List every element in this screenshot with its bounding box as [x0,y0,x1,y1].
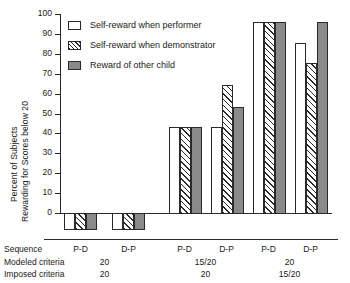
axis-row-label: Imposed criteria [4,269,64,279]
bar [253,22,264,214]
bar-group [211,14,244,214]
sequence-value: P-D [165,244,205,254]
bar [222,85,233,214]
zero-line [60,213,332,214]
modeled-criteria-value: 15/20 [176,257,236,267]
y-axis-tick-label: 50 [22,108,52,118]
axis-row-label: Modeled criteria [4,257,64,267]
legend-swatch-gray-icon [68,61,81,70]
legend-item-label: Reward of other child [90,60,175,70]
y-axis-tick-label: 40 [22,127,52,137]
bar-group [295,14,328,214]
bar [211,127,222,214]
y-axis-tick-label: 90 [22,28,52,38]
y-axis-title-line-2: Rewarding for Scores below 20 [20,101,30,222]
bar [134,213,145,230]
sequence-value: D-P [109,244,149,254]
sequence-value: D-P [291,244,331,254]
bar [233,107,244,214]
bar [64,213,75,230]
modeled-criteria-value: 20 [260,257,320,267]
bar-group [253,14,286,214]
bar [123,213,134,230]
bar [75,213,86,230]
bar [86,213,97,230]
bar [112,213,123,230]
y-axis-tick-label: 20 [22,167,52,177]
sequence-value: D-P [207,244,247,254]
bar [275,22,286,214]
legend-item: Reward of other child [68,57,216,73]
y-axis-title-line-1: Percent of Subjects [9,126,19,202]
legend-item: Self-reward when demonstrator [68,37,216,53]
y-axis-tick-label: 70 [22,68,52,78]
y-axis-tick-label: 10 [22,187,52,197]
legend-swatch-hatched-icon [68,41,81,50]
legend-item: Self-reward when performer [68,17,216,33]
y-axis-tick-label: 30 [22,147,52,157]
legend-item-label: Self-reward when demonstrator [90,40,216,50]
bar [191,127,202,214]
modeled-criteria-value: 20 [75,257,135,267]
x-axis-baseline [44,239,338,240]
y-axis-tick-label: 80 [22,48,52,58]
legend-swatch-open-icon [68,21,81,30]
bar [295,43,306,214]
bar [264,22,275,214]
bar [180,127,191,214]
y-axis-tick-label: 0 [22,207,52,217]
bar-chart-figure: Percent of Subjects Rewarding for Scores… [0,0,350,283]
y-axis-tick-label: 60 [22,88,52,98]
sequence-value: P-D [61,244,101,254]
axis-row-label: Sequence [4,244,42,254]
bar [317,22,328,214]
legend-item-label: Self-reward when performer [90,20,202,30]
sequence-value: P-D [249,244,289,254]
imposed-criteria-value: 20 [75,269,135,279]
imposed-criteria-value: 15/20 [260,269,320,279]
imposed-criteria-value: 20 [176,269,236,279]
bar [169,127,180,214]
bar [306,63,317,214]
legend: Self-reward when performer Self-reward w… [68,17,216,77]
y-axis-tick-label: 100 [22,8,52,18]
